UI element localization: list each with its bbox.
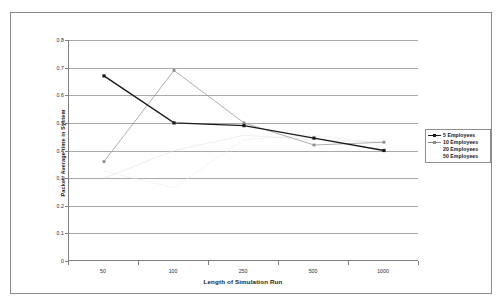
x-axis-ticks: [68, 261, 418, 266]
y-axis-tick-label: 0.1: [30, 230, 64, 236]
x-axis-tick-label: 250: [239, 267, 248, 275]
legend-item-label: 5 Employees: [442, 132, 475, 139]
y-axis-tick-label: 0.6: [30, 92, 64, 98]
legend-item[interactable]: 20 Employees: [427, 146, 488, 153]
y-axis-tick-labels: 0.80.70.60.50.40.30.20.10: [28, 40, 64, 261]
y-axis-tick-label: 0.2: [30, 203, 64, 209]
series-marker: [383, 141, 386, 144]
x-axis-tick: [348, 261, 349, 265]
legend-key-icon: [427, 146, 442, 153]
figure-border: Packet: Average time in System 0.80.70.6…: [10, 12, 492, 294]
legend-key-icon: [427, 139, 442, 146]
legend-item-label: 50 Employees: [442, 153, 478, 160]
x-axis-tick-labels: 501002505001000: [68, 267, 418, 276]
y-axis-tick-label: 0.3: [30, 175, 64, 181]
legend-item[interactable]: 5 Employees: [427, 132, 488, 139]
x-axis-tick-label: 1000: [377, 267, 389, 275]
x-axis-tick: [68, 261, 69, 265]
x-axis-tick-label: 50: [100, 267, 106, 275]
legend-item-label: 20 Employees: [442, 146, 478, 153]
legend-key-icon: [427, 153, 442, 160]
x-axis-tick-label: 500: [309, 267, 318, 275]
chart-page: Packet: Average time in System 0.80.70.6…: [0, 0, 503, 307]
x-axis-tick: [138, 261, 139, 265]
legend-marker-icon: [433, 134, 436, 137]
legend-item-label: 10 Employees: [442, 139, 478, 146]
legend-item[interactable]: 10 Employees: [427, 139, 488, 146]
x-axis-tick: [208, 261, 209, 265]
legend-marker-icon: [433, 141, 436, 144]
legend-key-icon: [427, 132, 442, 139]
legend-item[interactable]: 50 Employees: [427, 153, 488, 160]
y-axis-tick-label: 0.8: [30, 37, 64, 43]
series-marker: [102, 74, 105, 77]
x-axis-title: Length of Simulation Run: [68, 278, 418, 285]
series-marker: [242, 124, 245, 127]
series-line: [104, 70, 384, 161]
y-axis-tick-label: 0: [30, 258, 64, 264]
series-marker: [173, 69, 176, 72]
y-axis-tick-label: 0.5: [30, 120, 64, 126]
x-axis-tick-label: 100: [169, 267, 178, 275]
x-axis-tick: [278, 261, 279, 265]
series-layer: [69, 40, 419, 261]
chart-legend: 5 Employees10 Employees20 Employees50 Em…: [425, 129, 491, 163]
series-marker: [172, 121, 175, 124]
x-axis-tick: [418, 261, 419, 265]
series-marker: [243, 122, 246, 125]
series-marker: [312, 137, 315, 140]
y-axis-tick-label: 0.7: [30, 65, 64, 71]
series-marker: [313, 144, 316, 147]
plot-area: [68, 40, 418, 261]
y-axis-tick-label: 0.4: [30, 148, 64, 154]
series-marker: [103, 160, 106, 163]
series-line: [104, 135, 384, 178]
series-marker: [382, 149, 385, 152]
